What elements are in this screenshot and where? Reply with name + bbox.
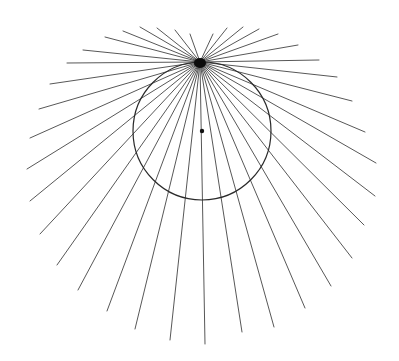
ray-line bbox=[200, 62, 205, 344]
ray-line bbox=[170, 62, 200, 340]
ray-line bbox=[200, 62, 352, 101]
ray-line bbox=[135, 62, 200, 329]
ray-line bbox=[30, 62, 200, 138]
ray-line bbox=[107, 62, 200, 311]
ray-line bbox=[200, 62, 365, 132]
ray-line bbox=[57, 62, 200, 265]
circle-center-dot bbox=[200, 129, 204, 133]
ray-line bbox=[67, 62, 200, 63]
ray-line bbox=[200, 62, 305, 308]
ray-line bbox=[200, 62, 375, 196]
ray-line bbox=[40, 62, 200, 234]
ray-line bbox=[27, 62, 200, 169]
ray-line bbox=[39, 62, 200, 109]
diagram-canvas bbox=[0, 0, 399, 361]
ray-line bbox=[200, 27, 243, 62]
ray-line bbox=[200, 60, 319, 62]
ray-line bbox=[200, 62, 352, 258]
ray-pencil bbox=[27, 27, 376, 344]
ray-line bbox=[105, 37, 200, 62]
ray-circle-diagram bbox=[0, 0, 399, 361]
ray-line bbox=[200, 62, 364, 225]
ray-line bbox=[200, 62, 376, 163]
ray-line bbox=[78, 62, 200, 290]
ray-line bbox=[200, 62, 331, 286]
focal-point-cluster bbox=[194, 58, 206, 68]
ray-line bbox=[200, 62, 274, 327]
